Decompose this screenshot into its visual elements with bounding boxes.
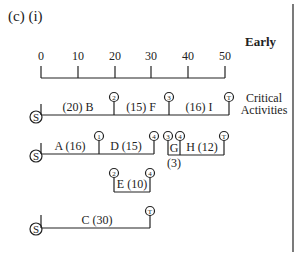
tick-label: 30 xyxy=(145,49,157,63)
tick-label: 20 xyxy=(109,49,121,63)
activity-label-d: D (15) xyxy=(110,139,142,153)
activity-label-e: E (10) xyxy=(117,177,147,191)
node-label: 4 xyxy=(148,170,152,178)
activity-label-c: C (30) xyxy=(82,213,113,227)
tick-label: 0 xyxy=(38,49,44,63)
node-label: 2 xyxy=(112,94,116,102)
critical-activities-label: Critical Activities xyxy=(241,91,288,117)
end-node-label: T xyxy=(148,208,153,216)
start-node-label: S xyxy=(33,150,39,162)
activity-label-i: (16) I xyxy=(186,100,213,114)
node-label: 2 xyxy=(112,170,116,178)
activity-label-h: H (12) xyxy=(186,140,218,154)
activity-diagram: 0 10 20 30 40 50 S 2 3 T S 1 4 3 4 T 2 4… xyxy=(0,0,298,259)
activity-label-g: G xyxy=(170,141,179,155)
activity-labels: (20) B (15) F (16) I A (16) D (15) G (3)… xyxy=(55,100,218,227)
tick-label: 10 xyxy=(72,49,84,63)
tick-label: 40 xyxy=(182,49,194,63)
end-node-label: T xyxy=(227,94,232,102)
node-label: 4 xyxy=(178,133,182,141)
end-node-label: T xyxy=(222,133,227,141)
node-label: 4 xyxy=(152,133,156,141)
activity-label-f: (15) F xyxy=(126,100,156,114)
tick-label: 50 xyxy=(219,49,231,63)
start-node-label: S xyxy=(33,111,39,123)
activity-label-a: A (16) xyxy=(55,139,86,153)
activity-label-b: (20) B xyxy=(63,100,94,114)
axis-tick-labels: 0 10 20 30 40 50 xyxy=(38,49,231,63)
activity-duration-g: (3) xyxy=(167,156,181,170)
node-label: 3 xyxy=(167,94,171,102)
start-node-label: S xyxy=(33,223,39,235)
node-label: 1 xyxy=(97,133,101,141)
side-label-line2: Activities xyxy=(241,103,288,117)
time-axis xyxy=(41,66,225,78)
node-label: 3 xyxy=(166,133,170,141)
